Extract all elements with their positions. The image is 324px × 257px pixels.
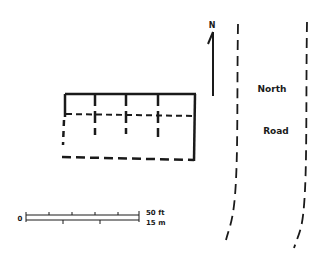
building-plan [62, 94, 196, 161]
scale-ft-label: 50 ft [146, 209, 165, 217]
road-label-north: North [258, 84, 287, 94]
site-plan-diagram: N North Road 0 50 ft 15 m [0, 0, 324, 257]
north-arrow-icon [208, 32, 213, 96]
road-edge-left [226, 24, 238, 240]
north-arrow-label: N [209, 21, 216, 30]
scale-bar [26, 211, 139, 224]
road-edge-right [294, 22, 307, 248]
scale-zero-label: 0 [18, 215, 23, 223]
road-label-road: Road [263, 126, 289, 136]
scale-m-label: 15 m [146, 219, 165, 227]
